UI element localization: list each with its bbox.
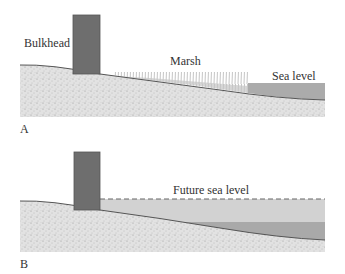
bulkhead-label: Bulkhead <box>24 36 70 51</box>
panel-a-letter: A <box>20 122 29 137</box>
sea-level-label: Sea level <box>272 69 316 84</box>
bulkhead-a <box>73 15 100 74</box>
panel-b-letter: B <box>20 257 28 272</box>
future-sea-level-label: Future sea level <box>173 183 249 198</box>
bulkhead-b <box>74 152 100 210</box>
marsh-label: Marsh <box>170 54 201 69</box>
panel-b <box>20 152 325 252</box>
